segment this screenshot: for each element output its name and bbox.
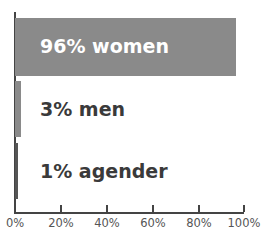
x-tick-label: 20% <box>48 216 74 230</box>
x-tick <box>106 205 108 212</box>
x-tick-label: 0% <box>6 216 24 230</box>
x-tick <box>198 205 200 212</box>
bar-label-agender: 1% agender <box>40 162 168 181</box>
x-tick-label: 60% <box>140 216 166 230</box>
bar-agender <box>15 143 18 199</box>
x-tick <box>60 205 62 212</box>
x-tick <box>243 205 245 212</box>
x-tick-label: 80% <box>186 216 212 230</box>
bar-label-women: 96% women <box>40 37 169 56</box>
bar-men <box>15 81 21 137</box>
x-tick-label: 100% <box>228 216 261 230</box>
x-tick <box>152 205 154 212</box>
bar-label-men: 3% men <box>40 100 125 119</box>
x-axis-line <box>14 212 244 214</box>
x-tick-label: 40% <box>94 216 120 230</box>
